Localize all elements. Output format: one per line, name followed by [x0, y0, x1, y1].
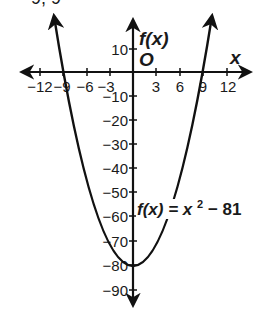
y-tick-label: −20: [103, 112, 128, 129]
function-label: f(x) = x 2 − 81: [137, 193, 241, 219]
x-tick-label: 6: [176, 78, 184, 95]
parabola-chart: −12 −9 −6 −3 3 6 9 12 10 −10 −20 −30 −40…: [0, 0, 266, 318]
y-tick-label: −50: [103, 184, 128, 201]
x-tick-label: −12: [27, 78, 52, 95]
y-tick-label: −10: [103, 88, 128, 105]
y-axis-label: f(x): [139, 28, 169, 49]
y-tick-label: −30: [103, 136, 128, 153]
x-tick-label: −6: [76, 78, 93, 95]
x-tick-label: 3: [152, 78, 160, 95]
func-rest: − 81: [208, 200, 242, 219]
func-prefix: f(x): [137, 200, 164, 219]
x-tick-labels: −12 −9 −6 −3 3 6 9 12: [27, 78, 236, 95]
x-tick-label: 12: [220, 78, 237, 95]
y-tick-label: −40: [103, 160, 128, 177]
y-tick-label: −60: [103, 208, 128, 225]
x-axis-label: x: [229, 47, 242, 68]
y-tick-label: 10: [111, 41, 128, 58]
func-exp: 2: [197, 198, 203, 210]
origin-label: O: [139, 49, 154, 70]
y-tick-label: −90: [103, 282, 128, 299]
func-eq: = x: [168, 200, 194, 219]
y-tick-label: −80: [103, 257, 128, 274]
